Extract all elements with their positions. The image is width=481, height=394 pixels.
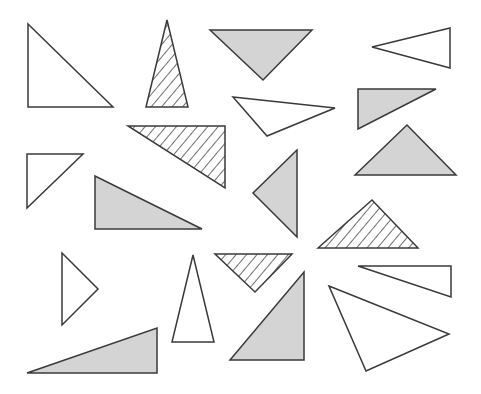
figure-svg [0, 0, 481, 394]
triangle-gray-11 [95, 176, 202, 229]
triangle-white-18 [329, 286, 449, 371]
triangle-hatched-15 [215, 254, 292, 292]
triangle-gray-9 [253, 150, 297, 237]
triangle-white-4 [372, 28, 450, 68]
triangle-white-8 [27, 154, 83, 208]
triangles-group [27, 20, 456, 373]
triangle-gray-3 [210, 30, 312, 80]
triangle-gray-6 [358, 89, 436, 129]
triangle-white-17 [358, 266, 451, 297]
triangle-hatched-2 [146, 20, 188, 107]
triangle-gray-19 [27, 328, 157, 373]
triangle-hatched-7 [128, 126, 225, 188]
triangle-figure [0, 0, 481, 394]
triangle-gray-10 [355, 125, 456, 175]
triangle-gray-16 [230, 272, 304, 360]
triangle-white-1 [28, 24, 113, 107]
triangle-hatched-12 [318, 200, 418, 248]
triangle-white-5 [233, 97, 335, 136]
triangle-white-14 [172, 255, 214, 342]
triangle-white-13 [62, 253, 98, 325]
